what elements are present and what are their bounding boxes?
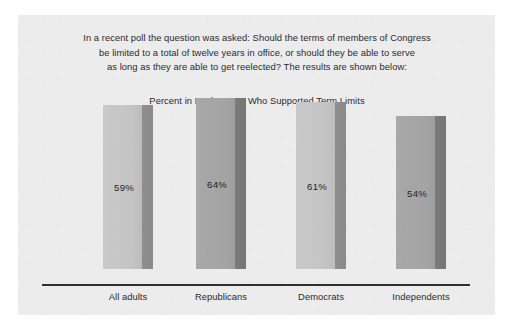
bar-value-democrats: 61%	[296, 180, 338, 191]
bar-value-all-adults: 59%	[103, 182, 145, 193]
bar-independents[interactable]: 54%	[396, 116, 446, 269]
bar-value-independents: 54%	[396, 187, 438, 198]
x-axis-line	[42, 284, 470, 286]
bar-group-all-adults: 59%	[103, 105, 153, 269]
plot-area: 59% 64% 61% 54%	[18, 15, 495, 315]
x-axis-label-independents: Independents	[361, 291, 481, 302]
chart-screenshot: In a recent poll the question was asked:…	[0, 0, 511, 330]
bar-democrats[interactable]: 61%	[296, 102, 346, 269]
bar-group-independents: 54%	[396, 116, 446, 269]
bar-value-republicans: 64%	[196, 178, 238, 189]
bar-group-democrats: 61%	[296, 102, 346, 269]
figure-panel: In a recent poll the question was asked:…	[18, 15, 495, 315]
bar-all-adults[interactable]: 59%	[103, 105, 153, 269]
bar-group-republicans: 64%	[196, 98, 246, 269]
bar-republicans[interactable]: 64%	[196, 98, 246, 269]
